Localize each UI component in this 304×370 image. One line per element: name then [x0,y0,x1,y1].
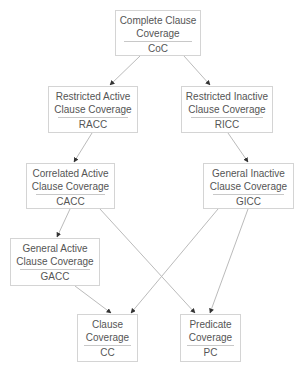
edge-gacc-cc [75,286,111,313]
edge-cacc-pc [100,209,195,313]
node-coc-separator [124,41,191,42]
edge-coc-ricc [184,56,210,85]
node-ricc: Restricted Inactive Clause Coverage RICC [181,86,273,133]
node-cacc-line1: Correlated Active [27,168,114,181]
node-pc-line2: Coverage [181,332,240,345]
node-cacc-abbr: CACC [27,196,114,209]
node-cc-line1: Clause [78,319,137,332]
node-cacc: Correlated Active Clause Coverage CACC [26,163,115,209]
node-pc-line1: Predicate [181,319,240,332]
node-coc-line1: Complete Clause [116,15,200,28]
node-racc-abbr: RACC [49,119,137,132]
edge-cacc-gacc [57,209,70,237]
node-gicc-abbr: GICC [204,196,293,209]
node-gacc-separator [20,269,90,270]
node-pc-separator [187,345,234,346]
node-racc: Restricted Active Clause Coverage RACC [48,86,138,133]
node-ricc-line2: Clause Coverage [182,104,272,117]
node-ricc-separator [191,117,263,118]
node-cacc-line2: Clause Coverage [27,181,114,194]
edge-racc-cacc [74,133,92,162]
node-ricc-line1: Restricted Inactive [182,91,272,104]
node-coc: Complete Clause Coverage CoC [115,10,201,56]
edge-coc-racc [110,56,140,85]
node-racc-separator [58,117,128,118]
node-racc-line1: Restricted Active [49,91,137,104]
node-ricc-abbr: RICC [182,119,272,132]
node-gacc-abbr: GACC [11,271,99,284]
node-cc-abbr: CC [78,347,137,360]
node-gicc-line2: Clause Coverage [204,181,293,194]
node-coc-line2: Coverage [116,28,200,41]
node-gacc: General Active Clause Coverage GACC [10,238,100,286]
edge-gicc-cc [131,209,218,313]
node-cacc-separator [36,194,106,195]
node-cc-separator [84,345,131,346]
edge-gicc-pc [210,209,248,313]
node-coc-abbr: CoC [116,43,200,56]
node-pc-abbr: PC [181,347,240,360]
node-gacc-line1: General Active [11,243,99,256]
node-cc-line2: Coverage [78,332,137,345]
node-racc-line2: Clause Coverage [49,104,137,117]
node-gicc: General Inactive Clause Coverage GICC [203,163,294,209]
node-gacc-line2: Clause Coverage [11,256,99,269]
node-cc: Clause Coverage CC [77,314,138,362]
node-gicc-separator [213,194,284,195]
node-pc: Predicate Coverage PC [180,314,241,362]
node-gicc-line1: General Inactive [204,168,293,181]
edge-ricc-gicc [228,133,248,162]
